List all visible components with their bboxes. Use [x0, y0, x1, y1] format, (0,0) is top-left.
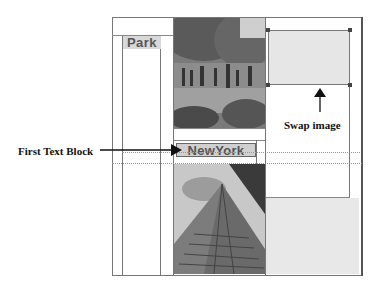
right-frame-edge [361, 17, 363, 276]
park-text-block[interactable]: Park [123, 36, 161, 49]
up-arrow-icon [314, 88, 326, 112]
newyork-photo[interactable] [174, 164, 265, 274]
right-arrow-icon [100, 144, 182, 156]
park-photo[interactable] [174, 18, 265, 128]
resize-handle-br[interactable] [348, 83, 352, 87]
resize-handle-bl[interactable] [266, 83, 270, 87]
swap-image-placeholder[interactable] [268, 30, 350, 85]
swap-image-label: Swap image [284, 119, 341, 131]
caption-band-top [174, 128, 265, 129]
newyork-text-block[interactable]: NewYork [176, 143, 256, 157]
second-image-placeholder[interactable] [266, 198, 359, 274]
resize-handle-tl[interactable] [266, 28, 270, 32]
resize-handle-tr[interactable] [348, 28, 352, 32]
page-layout-diagram: Park NewYork [0, 0, 385, 292]
skyscraper-photo-graphic [174, 164, 265, 274]
first-text-block-label: First Text Block [18, 145, 93, 157]
park-photo-graphic [174, 18, 265, 128]
caption-band-bottom [174, 140, 265, 141]
